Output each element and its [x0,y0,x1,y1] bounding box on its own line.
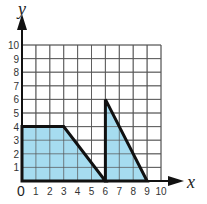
x-tick-label: 10 [155,186,167,197]
y-tick-label: 6 [13,94,19,105]
origin-label: 0 [17,183,25,199]
x-axis-arrow-icon [168,176,184,186]
y-axis-label: y [16,0,26,19]
x-axis-label: x [186,172,195,192]
x-tick-label: 5 [89,186,95,197]
x-tick-label: 8 [130,186,136,197]
y-tick-label: 1 [13,162,19,173]
x-tick-label: 2 [47,186,53,197]
x-tick-label: 6 [103,186,109,197]
shaded-shapes [22,45,161,181]
y-tick-label: 5 [13,108,19,119]
y-tick-label: 3 [13,135,19,146]
x-tick-label: 4 [75,186,81,197]
y-tick-label: 9 [13,54,19,65]
y-tick-label: 8 [13,67,19,78]
y-tick-label: 7 [13,81,19,92]
x-tick-label: 3 [61,186,67,197]
y-tick-label: 2 [13,149,19,160]
x-tick-label: 7 [117,186,123,197]
y-tick-label: 4 [13,122,19,133]
coordinate-grid-diagram: 1234567891012345678910 y x 0 [0,0,207,204]
x-tick-label: 9 [144,186,150,197]
x-tick-label: 1 [33,186,39,197]
y-tick-label: 10 [8,40,20,51]
